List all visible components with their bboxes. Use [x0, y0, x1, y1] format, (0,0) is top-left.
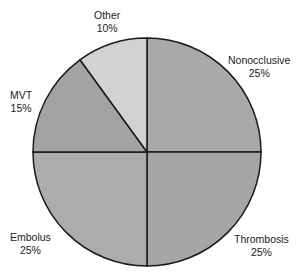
- label-pct: 10%: [94, 22, 120, 35]
- label-name: Thrombosis: [234, 233, 289, 246]
- label-pct: 15%: [10, 102, 32, 115]
- label-pct: 25%: [10, 244, 51, 257]
- label-name: Nonocclusive: [228, 54, 290, 67]
- label-name: MVT: [10, 89, 32, 102]
- label-name: Other: [94, 9, 120, 22]
- label-pct: 25%: [234, 246, 289, 259]
- label-mvt: MVT 15%: [10, 89, 32, 115]
- label-nonocclusive: Nonocclusive 25%: [228, 54, 290, 80]
- label-thrombosis: Thrombosis 25%: [234, 233, 289, 259]
- label-embolus: Embolus 25%: [10, 231, 51, 257]
- label-other: Other 10%: [94, 9, 120, 35]
- label-pct: 25%: [228, 67, 290, 80]
- label-name: Embolus: [10, 231, 51, 244]
